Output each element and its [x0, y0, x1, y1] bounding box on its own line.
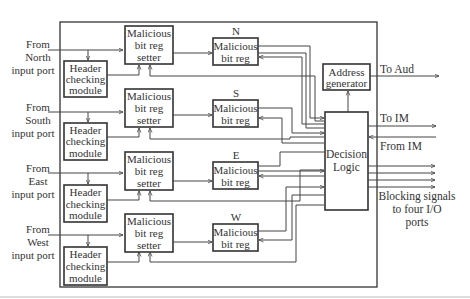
reg-decision-wiring	[258, 46, 324, 240]
south-input-label-3: input port	[11, 127, 54, 139]
west-setter-text-2: bit reg	[135, 227, 164, 239]
east-direction-label: E	[233, 149, 240, 161]
north-input-label-2: North	[25, 51, 51, 63]
east-reg-text-2: bit reg	[221, 176, 250, 188]
north-input-label-1: From	[26, 38, 50, 50]
east-setter-text-2: bit reg	[135, 165, 164, 177]
west-reg-text-1: Malicious	[214, 226, 258, 238]
west-direction-label: W	[231, 211, 242, 223]
address-generator-text-2: generator	[326, 77, 368, 89]
south-setter-text-2: bit reg	[135, 102, 164, 114]
north-header-text-3: module	[69, 84, 102, 96]
blocking-signals-label-1: Blocking signals	[379, 190, 457, 203]
east-input-label-3: input port	[11, 188, 54, 200]
to-im-label: To IM	[380, 112, 409, 124]
north-setter-text-3: setter	[137, 51, 161, 63]
decision-logic-text-2: Logic	[333, 161, 360, 174]
north-input-label-3: input port	[11, 64, 54, 76]
north-reg-text-2: bit reg	[221, 52, 250, 64]
east-setter-text-1: Malicious	[127, 153, 171, 165]
north-reg-text-1: Malicious	[214, 40, 258, 52]
east-input-label-1: From	[26, 162, 50, 174]
south-header-text-3: module	[69, 147, 102, 159]
east-header-text-1: Header	[70, 186, 102, 198]
west-reg-text-2: bit reg	[221, 238, 250, 250]
east-header-text-3: module	[69, 209, 102, 221]
decision-logic-text-1: Decision	[326, 148, 367, 160]
south-reg-text-2: bit reg	[221, 114, 250, 126]
from-im-label: From IM	[380, 140, 422, 152]
to-aud-label: To Aud	[380, 63, 414, 75]
west-input-label-2: West	[27, 236, 49, 248]
east-input-label-2: East	[29, 175, 48, 187]
east-setter-text-3: setter	[137, 177, 161, 189]
west-setter-text-3: setter	[137, 239, 161, 251]
east-reg-text-1: Malicious	[214, 164, 258, 176]
west-input-label-1: From	[26, 223, 50, 235]
south-direction-label: S	[233, 87, 239, 99]
south-input-label-1: From	[26, 101, 50, 113]
east-channel: From East input port Header checking mod…	[11, 149, 324, 222]
south-reg-text-1: Malicious	[214, 102, 258, 114]
north-direction-label: N	[232, 25, 240, 37]
west-input-label-3: input port	[11, 249, 54, 261]
blocking-signal-wires	[368, 166, 435, 187]
south-setter-text-3: setter	[137, 114, 161, 126]
blocking-signals-label-3: ports	[406, 216, 430, 229]
south-input-label-2: South	[25, 114, 51, 126]
west-channel: From West input port Header checking mod…	[11, 205, 324, 285]
west-setter-text-1: Malicious	[127, 215, 171, 227]
west-header-text-1: Header	[70, 248, 102, 260]
north-setter-text-2: bit reg	[135, 39, 164, 51]
south-header-text-2: checking	[66, 135, 106, 147]
south-channel: From South input port Header checking mo…	[11, 87, 324, 160]
west-header-text-2: checking	[66, 260, 106, 272]
north-setter-text-1: Malicious	[127, 27, 171, 39]
south-setter-text-1: Malicious	[127, 90, 171, 102]
router-security-block-diagram: From North input port Header checking mo…	[0, 0, 470, 299]
blocking-signals-label-2: to four I/O	[392, 203, 441, 215]
west-header-text-3: module	[69, 272, 102, 284]
